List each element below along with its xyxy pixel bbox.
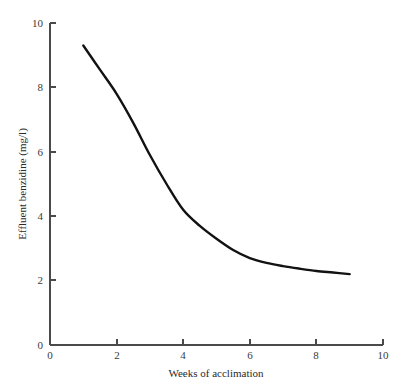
x-tick-labels: 0 2 4 6 8 10 [47,349,389,361]
x-tick-label-8: 8 [313,349,319,361]
x-axis-ticks [50,339,383,345]
x-axis-title: Weeks of acclimation [168,367,264,379]
x-tick-label-6: 6 [247,349,253,361]
y-tick-label-10: 10 [32,17,44,29]
chart-figure: 0 2 4 6 8 10 0 2 4 6 8 10 Weeks of accli… [0,0,407,392]
benzidine-decay-curve [83,46,349,275]
y-tick-label-0: 0 [38,339,44,351]
line-chart-plot: 0 2 4 6 8 10 0 2 4 6 8 10 Weeks of accli… [0,0,407,392]
y-tick-label-2: 2 [38,274,44,286]
x-tick-label-10: 10 [378,349,390,361]
y-tick-label-4: 4 [38,210,44,222]
x-tick-label-2: 2 [114,349,120,361]
y-tick-label-6: 6 [38,146,44,158]
y-tick-labels: 0 2 4 6 8 10 [32,17,44,351]
y-axis-ticks [50,23,56,345]
x-tick-label-0: 0 [47,349,53,361]
y-axis-title: Effluent benzidine (mg/l) [16,128,29,240]
x-tick-label-4: 4 [180,349,186,361]
y-tick-label-8: 8 [38,81,44,93]
